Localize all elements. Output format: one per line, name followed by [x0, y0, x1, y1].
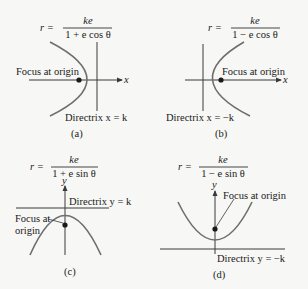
parabola-curve	[212, 42, 250, 116]
directrix-label: Directrix y = −k	[217, 253, 286, 264]
formula-lhs: r =	[178, 161, 192, 172]
focus-point	[76, 77, 81, 82]
formula-lhs: r =	[30, 161, 44, 172]
focus-point	[62, 222, 67, 227]
focus-label: Focus at origin	[16, 66, 80, 77]
formula-denominator: 1 + e sin θ	[52, 168, 96, 179]
focus-point	[218, 77, 223, 82]
formula-numerator: ke	[69, 154, 79, 165]
panel-d: r = ke 1 − e sin θ y Focus at origin Dir…	[160, 154, 287, 281]
caption-b: (b)	[215, 128, 228, 140]
directrix-label: Directrix y = k	[69, 196, 132, 207]
focus-label: Focus at origin	[222, 66, 286, 77]
formula-lhs: r =	[40, 22, 54, 33]
formula-numerator: ke	[83, 15, 93, 26]
directrix-label: Directrix x = −k	[166, 112, 235, 123]
parabola-curve	[50, 42, 87, 116]
formula-b: r = ke 1 − e cos θ	[208, 15, 280, 40]
panel-a: r = ke 1 + e cos θ x Focus at origin Dir…	[16, 15, 129, 140]
panel-b: r = ke 1 − e cos θ x Focus at origin Dir…	[166, 15, 288, 140]
y-axis-label: y	[211, 179, 217, 190]
y-axis-label: y	[61, 175, 67, 186]
formula-lhs: r =	[208, 22, 222, 33]
directrix-label: Directrix x = k	[65, 112, 128, 123]
focus-label: Focus at origin	[223, 190, 287, 201]
caption-a: (a)	[71, 128, 83, 140]
formula-denominator: 1 − e sin θ	[201, 168, 245, 179]
focus-label-line1: Focus at	[15, 213, 50, 224]
formula-a: r = ke 1 + e cos θ	[40, 15, 112, 40]
x-axis-label: x	[123, 74, 129, 85]
caption-d: (d)	[213, 269, 226, 281]
focus-point	[212, 226, 217, 231]
formula-numerator: ke	[250, 15, 260, 26]
formula-numerator: ke	[218, 154, 228, 165]
panel-c: r = ke 1 + e sin θ y Directrix y = k Foc…	[15, 154, 132, 278]
formula-denominator: 1 + e cos θ	[65, 29, 110, 40]
focus-leader-line	[216, 199, 234, 227]
caption-c: (c)	[64, 266, 76, 278]
conic-polar-equations-figure: r = ke 1 + e cos θ x Focus at origin Dir…	[0, 0, 308, 289]
focus-label-line2: origin	[15, 225, 41, 236]
formula-denominator: 1 − e cos θ	[232, 29, 277, 40]
formula-d: r = ke 1 − e sin θ	[178, 154, 248, 179]
